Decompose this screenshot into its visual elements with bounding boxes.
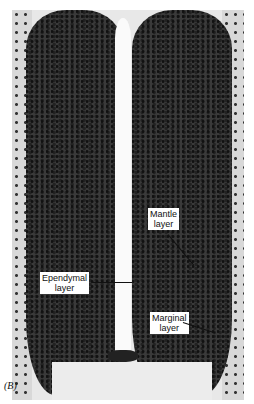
panel-label: (B) — [4, 380, 17, 391]
central-canal — [115, 18, 131, 358]
ependymal-pointer-line — [92, 282, 132, 283]
label-line: Ependymal — [42, 273, 87, 283]
mantle-layer-label: Mantle layer — [148, 208, 179, 230]
ventral-tissue — [52, 362, 212, 400]
ependymal-layer-label: Ependymal layer — [40, 272, 89, 294]
neural-tube-left-wall — [26, 10, 124, 395]
micrograph — [12, 10, 244, 400]
label-line: layer — [42, 283, 87, 293]
neural-tube-right-wall — [132, 10, 232, 395]
label-line: Marginal — [152, 313, 187, 323]
label-line: layer — [152, 323, 187, 333]
floor-plate — [108, 350, 138, 362]
label-line: Mantle — [150, 209, 177, 219]
label-line: layer — [150, 219, 177, 229]
